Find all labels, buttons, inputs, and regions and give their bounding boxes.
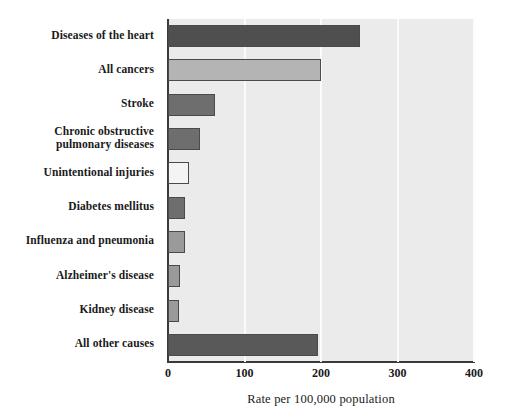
- bar: [168, 334, 318, 356]
- category-labels: Diseases of the heartAll cancersStrokeCh…: [0, 0, 162, 419]
- category-label: Diabetes mellitus: [0, 200, 162, 213]
- gridline: [397, 19, 399, 362]
- bar: [168, 94, 215, 116]
- bar: [168, 59, 321, 81]
- x-tick-label: 200: [312, 366, 330, 381]
- category-label: Diseases of the heart: [0, 29, 162, 42]
- bar: [168, 128, 200, 150]
- bar: [168, 197, 185, 219]
- category-label: Unintentional injuries: [0, 166, 162, 179]
- bar: [168, 162, 189, 184]
- bar: [168, 265, 180, 287]
- bar: [168, 300, 179, 322]
- x-tick-label: 400: [465, 366, 483, 381]
- x-tick-label: 100: [236, 366, 254, 381]
- category-label: All cancers: [0, 63, 162, 76]
- bar-chart: Diseases of the heartAll cancersStrokeCh…: [0, 0, 506, 419]
- x-axis-title: Rate per 100,000 population: [168, 392, 474, 407]
- category-label: Chronic obstructive pulmonary diseases: [0, 125, 162, 151]
- category-label: Alzheimer's disease: [0, 269, 162, 282]
- x-tick-label: 300: [389, 366, 407, 381]
- category-label: Influenza and pneumonia: [0, 234, 162, 247]
- category-label: All other causes: [0, 337, 162, 350]
- category-label: Stroke: [0, 97, 162, 110]
- bar: [168, 25, 360, 47]
- gridline: [473, 19, 475, 362]
- category-label: Kidney disease: [0, 303, 162, 316]
- bar: [168, 231, 185, 253]
- x-tick-label: 0: [165, 366, 171, 381]
